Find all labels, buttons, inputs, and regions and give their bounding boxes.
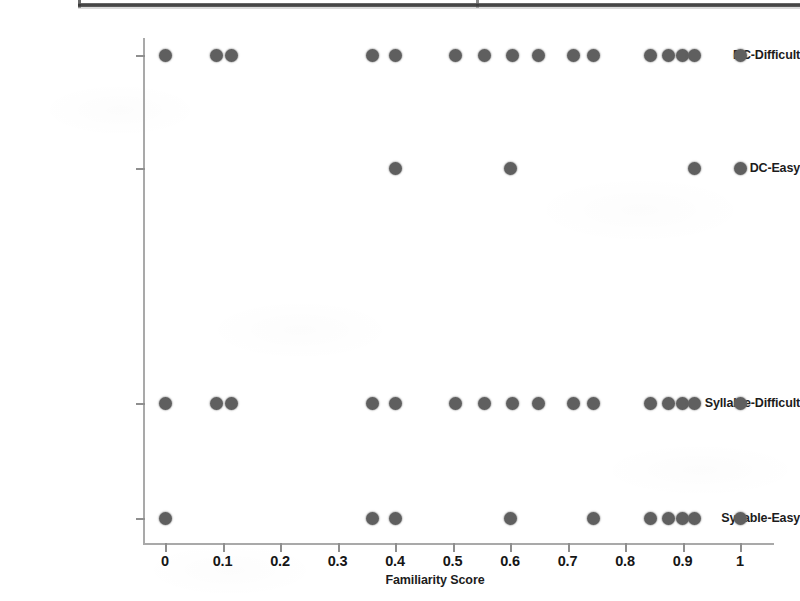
data-point xyxy=(734,49,747,62)
x-tick-mark xyxy=(453,543,455,552)
y-tick-mark xyxy=(136,403,145,405)
data-point xyxy=(478,397,491,410)
x-tick-mark xyxy=(165,543,167,552)
data-point xyxy=(587,512,600,525)
data-point xyxy=(734,162,747,175)
data-point xyxy=(210,49,223,62)
data-point xyxy=(662,397,675,410)
x-axis-title: Familiarity Score xyxy=(0,573,800,587)
data-point xyxy=(478,49,491,62)
data-point xyxy=(389,397,402,410)
x-tick-label-0-1: 0.1 xyxy=(193,553,253,569)
data-point xyxy=(225,49,238,62)
data-point xyxy=(506,49,519,62)
data-point xyxy=(366,49,379,62)
data-point xyxy=(449,49,462,62)
data-point xyxy=(159,49,172,62)
data-point xyxy=(366,512,379,525)
x-tick-label-0-4: 0.4 xyxy=(365,553,425,569)
data-point xyxy=(567,397,580,410)
data-point xyxy=(644,397,657,410)
x-tick-mark xyxy=(568,543,570,552)
data-point xyxy=(688,397,701,410)
data-point xyxy=(504,162,517,175)
x-tick-label-0-3: 0.3 xyxy=(308,553,368,569)
y-axis-line xyxy=(143,38,145,545)
data-point xyxy=(662,512,675,525)
data-point xyxy=(662,49,675,62)
x-tick-mark xyxy=(395,543,397,552)
data-point xyxy=(366,397,379,410)
data-point xyxy=(389,162,402,175)
x-axis-title-text: Familiarity Score xyxy=(315,573,484,587)
data-point xyxy=(389,49,402,62)
x-tick-label-0-6: 0.6 xyxy=(480,553,540,569)
data-point xyxy=(449,397,462,410)
x-tick-label-0-7: 0.7 xyxy=(538,553,598,569)
x-tick-label-0-8: 0.8 xyxy=(595,553,655,569)
y-tick-mark xyxy=(136,168,145,170)
data-point xyxy=(389,512,402,525)
data-point xyxy=(587,49,600,62)
data-point xyxy=(688,162,701,175)
data-point xyxy=(506,397,519,410)
data-point xyxy=(225,397,238,410)
y-tick-mark xyxy=(136,518,145,520)
x-tick-mark xyxy=(223,543,225,552)
x-tick-mark xyxy=(510,543,512,552)
data-point xyxy=(688,512,701,525)
data-point xyxy=(734,512,747,525)
data-point xyxy=(587,397,600,410)
data-point xyxy=(532,49,545,62)
x-tick-mark xyxy=(683,543,685,552)
x-tick-label-0-5: 0.5 xyxy=(423,553,483,569)
x-tick-label-0-2: 0.2 xyxy=(250,553,310,569)
data-point xyxy=(504,512,517,525)
data-point xyxy=(532,397,545,410)
data-point xyxy=(734,397,747,410)
data-point xyxy=(159,512,172,525)
x-tick-mark xyxy=(625,543,627,552)
y-tick-mark xyxy=(136,55,145,57)
dot-plot-chart: DC-DifficultDC-EasySyllable-DifficultSyl… xyxy=(0,0,800,601)
data-point xyxy=(159,397,172,410)
data-point xyxy=(644,512,657,525)
data-point xyxy=(688,49,701,62)
x-tick-mark xyxy=(280,543,282,552)
data-point xyxy=(567,49,580,62)
x-tick-mark xyxy=(338,543,340,552)
x-tick-label-0-9: 0.9 xyxy=(653,553,713,569)
x-tick-label-0: 0 xyxy=(135,553,195,569)
data-point xyxy=(210,397,223,410)
x-tick-mark xyxy=(740,543,742,552)
x-axis-line xyxy=(143,543,774,545)
data-point xyxy=(644,49,657,62)
x-tick-label-1: 1 xyxy=(710,553,770,569)
